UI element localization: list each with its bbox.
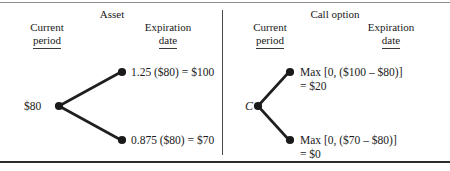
bottom-rule — [0, 161, 450, 163]
asset-panel-title: Asset — [62, 8, 162, 20]
call-expiration-line1: Expiration — [368, 21, 414, 33]
top-rule — [0, 2, 450, 3]
asset-expiration-line2: date — [159, 34, 177, 49]
call-root-node — [254, 102, 262, 110]
asset-down-value: 0.875 ($80) = $70 — [131, 134, 214, 147]
asset-up-value: 1.25 ($80) = $100 — [131, 66, 214, 79]
call-down-value-line1: Max [0, ($70 – $80)] — [300, 134, 397, 146]
call-current-period-header: Current period — [231, 21, 309, 49]
asset-current-period-line1: Current — [30, 21, 64, 33]
call-up-value-line1: Max [0, ($100 – $80)] — [300, 66, 403, 78]
call-option-panel-title: Call option — [285, 8, 385, 20]
asset-down-node — [118, 136, 126, 144]
call-current-period-line1: Current — [253, 21, 287, 33]
call-down-value-line2: = $0 — [300, 148, 321, 160]
asset-down-branch — [59, 106, 121, 140]
call-down-node — [286, 136, 294, 144]
call-current-period-line2: period — [256, 34, 284, 49]
asset-up-branch — [59, 72, 121, 106]
binomial-tree-figure: Asset Call option Current period Expirat… — [0, 0, 450, 171]
call-up-branch — [258, 72, 289, 106]
asset-current-period-line2: period — [33, 34, 61, 49]
asset-current-period-header: Current period — [8, 21, 86, 49]
call-expiration-date-header: Expiration date — [345, 21, 437, 49]
asset-expiration-line1: Expiration — [145, 21, 191, 33]
call-up-node — [286, 68, 294, 76]
call-up-value-line2: = $20 — [300, 80, 327, 92]
call-root-value: C — [245, 100, 253, 113]
asset-expiration-date-header: Expiration date — [122, 21, 214, 49]
call-expiration-line2: date — [382, 34, 400, 49]
call-up-value: Max [0, ($100 – $80)] = $20 — [300, 66, 435, 93]
call-down-value: Max [0, ($70 – $80)] = $0 — [300, 134, 435, 161]
asset-root-value: $80 — [24, 100, 41, 113]
asset-up-node — [118, 68, 126, 76]
panel-divider — [222, 10, 223, 155]
asset-root-node — [55, 102, 63, 110]
call-down-branch — [258, 106, 289, 140]
